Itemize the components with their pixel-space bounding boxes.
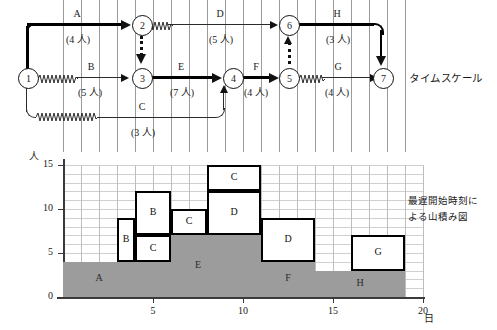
network-node-3[interactable]: 3 [132,68,153,89]
x-tick-mark [153,298,154,303]
y-tick-mark [58,165,63,166]
histogram-block-label: H [315,277,405,288]
activity-label-C: C [127,101,157,112]
histogram-block-label: D [261,233,315,244]
activity-resource-G: (4 人) [311,84,363,99]
x-tick-label: 10 [228,305,258,316]
x-tick-label: 15 [318,305,348,316]
arrow-head-F [269,73,279,83]
critical-path-riser-1 [26,26,29,72]
network-node-1[interactable]: 1 [18,68,39,89]
arrow-head-H [376,56,386,66]
arrow-head-E [212,73,222,83]
activity-edge-C [97,117,216,118]
arrow-head-B [121,74,129,82]
y-tick-mark [58,297,63,298]
activity-label-H: H [322,8,352,19]
histogram-block-label: C [207,171,261,182]
histogram-block-label: G [351,246,405,257]
activity-label-G: G [323,61,353,72]
histogram-block-label: B [117,233,135,244]
activity-resource-H: (3 人) [312,31,364,46]
network-node-5[interactable]: 5 [279,68,300,89]
y-tick-mark [58,253,63,254]
x-tick-label: 5 [138,305,168,316]
dummy-edge-2-3 [140,36,143,56]
x-tick-mark [243,298,244,303]
activity-edge-H [298,23,374,26]
y-tick-label: 5 [31,246,53,257]
x-tick-mark [423,298,424,303]
activity-resource-D: (5 人) [195,31,247,46]
histogram-caption-line1: 最遅開始時刻に [408,194,478,208]
histogram-block-label: C [135,242,171,253]
figure-root: A (4 人) D (5 人) H (3 人) B (5 人) E (7 人) … [0,0,497,330]
arrow-head-dummy-2-3 [136,54,146,64]
activity-resource-E: (7 人) [156,84,208,99]
network-node-6[interactable]: 6 [279,15,300,36]
histogram-block-label: C [171,215,207,226]
histogram-block-label: B [135,206,171,217]
activity-label-B: B [76,61,106,72]
arrow-head-dummy-5-6 [284,36,292,44]
activity-label-F: F [243,61,269,72]
activity-edge-G [322,77,372,78]
network-node-7[interactable]: 7 [373,68,394,89]
activity-edge-F [242,76,271,79]
y-tick-mark [58,209,63,210]
chart-gridline-vertical [405,165,406,297]
y-tick-label: 10 [31,202,53,213]
activity-resource-A: (4 人) [52,31,104,46]
activity-resource-B: (5 人) [64,84,116,99]
x-axis-unit-label: 日 [424,310,434,325]
histogram-block-label: F [261,272,315,283]
x-tick-mark [333,298,334,303]
network-node-2[interactable]: 2 [132,15,153,36]
chart-gridline-vertical [423,165,424,297]
arrow-head-A [121,20,131,30]
critical-path-descender-7 [380,30,383,58]
dummy-edge-5-6 [288,42,291,64]
x-axis [57,297,425,299]
activity-C-riser-right [223,92,224,110]
activity-edge-D [168,24,272,25]
activity-edge-B [76,77,123,78]
arrow-head-D [270,21,278,29]
activity-edge-A [27,23,123,26]
histogram-block-label: A [63,272,135,283]
y-tick-label: 0 [31,290,53,301]
histogram-block-label: D [207,206,261,217]
network-node-4[interactable]: 4 [223,68,244,89]
activity-resource-C: (3 人) [117,124,169,139]
activity-label-D: D [205,8,235,19]
activity-label-A: A [62,8,92,19]
histogram-caption-line2: よる山積み図 [408,210,468,224]
y-axis-unit-label: 人 [29,148,39,163]
activity-label-E: E [166,61,196,72]
activity-edge-E [152,76,214,79]
histogram-block-label: E [135,259,261,270]
histogram: ABBCCECDDFHG0510155101520 [0,0,497,330]
